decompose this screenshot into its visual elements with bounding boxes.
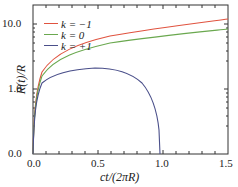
series-k-plus-1 — [33, 68, 160, 154]
legend: k = −1 k = 0 k = +1 — [44, 18, 92, 51]
legend-swatch — [44, 45, 58, 46]
x-tick-15: 1.5 — [219, 158, 233, 169]
x-tick-05: 0.5 — [91, 158, 105, 169]
legend-swatch — [44, 34, 58, 35]
y-axis-title: R(t)/R — [14, 55, 29, 105]
x-tick-1: 1.0 — [155, 158, 169, 169]
legend-item-k-minus-1: k = −1 — [44, 18, 92, 29]
x-axis-title: ct/(2πR) — [100, 170, 139, 185]
y-tick-10: 10.0 — [2, 18, 21, 29]
y-tick-0: 0.0 — [8, 148, 22, 159]
legend-swatch — [44, 23, 58, 24]
x-tick-0: 0.0 — [27, 158, 41, 169]
legend-item-k-plus-1: k = +1 — [44, 40, 92, 51]
legend-label: k = +1 — [61, 40, 92, 52]
legend-item-k-0: k = 0 — [44, 29, 92, 40]
